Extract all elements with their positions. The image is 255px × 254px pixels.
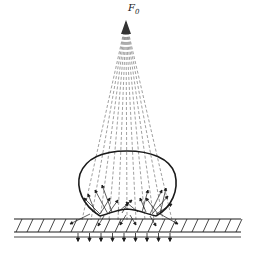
diagram-svg xyxy=(0,0,255,254)
source-point-icon xyxy=(121,20,131,34)
diagram-canvas: F0 xyxy=(0,0,255,254)
hatched-strip xyxy=(14,219,242,242)
scatter-arrows xyxy=(70,185,178,226)
contact-bump xyxy=(100,209,156,216)
